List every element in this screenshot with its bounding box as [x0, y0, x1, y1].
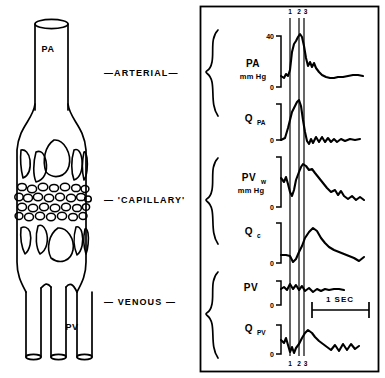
- venular-cells: [21, 225, 89, 261]
- waveform-q-pv: [281, 330, 359, 353]
- pv-tube-3: [77, 292, 92, 357]
- pv-tube-2-rim: [51, 354, 66, 359]
- waveform-q-pa: [281, 100, 360, 144]
- pv-tube-1: [26, 288, 41, 357]
- trace-label-pa: PA: [246, 58, 260, 69]
- trace-sub-q-c: c: [257, 232, 261, 239]
- region-label-arterial: —ARTERIAL—: [104, 68, 179, 78]
- region-label-capillary: — 'CAPILLARY': [104, 195, 185, 205]
- trace-sub-q-pa: PA: [257, 119, 266, 126]
- trace-label-pv-wedge: PV: [242, 172, 256, 183]
- trace-label-q-pa: Q: [245, 113, 253, 124]
- trace-label-pv: PV: [244, 282, 258, 293]
- trace-row-pv-wedge: PV w mm Hg 0: [238, 157, 364, 211]
- scale-bracket-q-pa: [276, 104, 281, 140]
- region-label-venous: — VENOUS —: [104, 297, 176, 307]
- brace-capillary: [206, 158, 218, 244]
- time-scale-bar: [312, 302, 369, 318]
- pv-tube-1-rim: [26, 354, 41, 359]
- trace-units-pa: mm Hg: [240, 72, 267, 81]
- scale-bottom-q-c: 0: [270, 260, 274, 267]
- brace-arterial: [206, 30, 218, 116]
- event-marker-lines: [290, 18, 304, 356]
- scale-bottom-q-pa: 0: [270, 137, 274, 144]
- scale-bottom-pv-wedge: 0: [270, 204, 274, 211]
- group-braces: [206, 30, 218, 358]
- trace-label-q-c: Q: [245, 226, 253, 237]
- marker-top-2: 2: [297, 8, 301, 15]
- pa-tube-outline: [35, 24, 68, 110]
- figure-canvas: PA PV —ARTERIAL— — 'CAPILLARY' — VENOUS …: [0, 0, 385, 378]
- capillary-bed: [15, 183, 91, 221]
- marker-top-1: 1: [288, 8, 292, 15]
- waveform-q-c: [281, 228, 364, 262]
- waveform-pv-wedge: [281, 164, 364, 200]
- scale-bracket-pv-wedge: [276, 157, 281, 207]
- trace-label-q-pv: Q: [245, 323, 253, 334]
- pv-tube-3-rim: [77, 354, 92, 359]
- vessel-diagram: [15, 19, 92, 359]
- trace-sub-pv-wedge: w: [260, 178, 267, 185]
- trace-row-q-pv: Q PV 0: [245, 323, 359, 358]
- waveform-pa-pressure: [281, 34, 363, 78]
- arteriolar-cells: [21, 140, 88, 182]
- scale-bottom-pv: 0: [270, 302, 274, 309]
- marker-bottom-3: 3: [304, 360, 308, 367]
- brace-venous: [206, 272, 218, 358]
- scale-bottom-pa: 0: [270, 84, 274, 91]
- scale-bracket-pa: [276, 36, 281, 87]
- pv-tube-2: [51, 287, 66, 357]
- trace-row-pa-pressure: PA mm Hg 40 0: [240, 33, 363, 91]
- scale-bottom-q-pv: 0: [270, 351, 274, 358]
- figure-root: PA PV —ARTERIAL— — 'CAPILLARY' — VENOUS …: [0, 0, 385, 378]
- scale-bracket-pv: [276, 281, 281, 305]
- vessel-tag-pv: PV: [65, 322, 78, 332]
- trace-sub-q-pv: PV: [257, 329, 266, 336]
- marker-top-3: 3: [304, 8, 308, 15]
- trace-row-q-pa: Q PA 0: [245, 100, 360, 144]
- time-bar-label: 1 SEC: [326, 295, 354, 304]
- marker-bottom-2: 2: [297, 360, 301, 367]
- vessel-tag-pa: PA: [41, 44, 54, 54]
- vessel-base-web: [41, 284, 77, 292]
- trace-units-pv-wedge: mm Hg: [238, 186, 265, 195]
- scale-bracket-q-c: [276, 223, 281, 263]
- pa-tube-rim: [35, 19, 68, 28]
- scale-top-pa: 40: [266, 33, 274, 40]
- marker-bottom-1: 1: [288, 360, 292, 367]
